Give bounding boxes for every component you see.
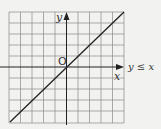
- y-axis-label: y: [56, 12, 62, 23]
- y-axis: [64, 12, 70, 125]
- origin-label: O: [58, 56, 67, 67]
- x-axis-label: x: [114, 71, 120, 82]
- y-axis-arrow-icon: [64, 12, 70, 20]
- line-label: y ≤ x: [128, 62, 154, 72]
